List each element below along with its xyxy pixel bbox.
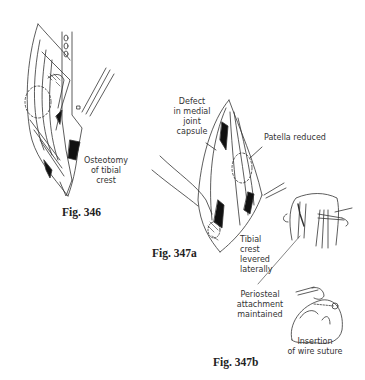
- label-text: Tibial: [240, 235, 280, 245]
- label-text: maintained: [228, 310, 292, 320]
- label-text: of wire suture: [280, 347, 350, 357]
- label-text: attachment: [228, 300, 292, 310]
- label-text: Periosteal: [228, 290, 292, 300]
- label-text: crest: [84, 176, 128, 186]
- label-patella-reduced: Patella reduced: [264, 133, 326, 143]
- label-text: in medial: [172, 107, 212, 117]
- label-text: levered: [240, 255, 280, 265]
- label-text: of tibial: [84, 166, 128, 176]
- label-text: Defect: [172, 97, 212, 107]
- label-text: joint: [172, 117, 212, 127]
- label-osteotomy: Osteotomy of tibial crest: [84, 156, 128, 186]
- fig347b-knee-drawing-top: [283, 194, 352, 249]
- label-text: capsule: [172, 127, 212, 137]
- label-text: Insertion: [280, 337, 350, 347]
- label-text: crest: [240, 245, 280, 255]
- label-defect-medial-joint-capsule: Defect in medial joint capsule: [172, 97, 212, 137]
- label-periosteal-attachment: Periosteal attachment maintained: [228, 290, 292, 320]
- caption-fig347b: Fig. 347b: [213, 356, 258, 368]
- label-text: Osteotomy: [84, 156, 128, 166]
- label-text: laterally: [240, 265, 280, 275]
- label-tibial-crest-levered: Tibial crest levered laterally: [240, 235, 280, 275]
- caption-fig347a: Fig. 347a: [152, 247, 197, 259]
- fig347b-knee-drawing-bottom: [291, 287, 342, 343]
- surgical-illustrations: [0, 0, 365, 380]
- label-insertion-wire-suture: Insertion of wire suture: [280, 337, 350, 357]
- caption-fig346: Fig. 346: [62, 206, 101, 218]
